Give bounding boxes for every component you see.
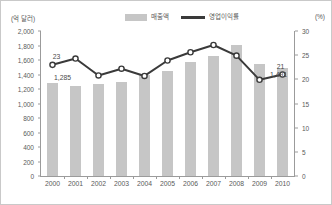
data-point-marker-2004 xyxy=(142,73,147,78)
annotation-revenue-2010: 1,491 xyxy=(270,70,287,77)
data-point-marker-2009 xyxy=(257,77,262,82)
data-point-marker-2005 xyxy=(165,58,170,63)
annotation-revenue-2000: 1,285 xyxy=(54,73,71,80)
data-point-marker-2003 xyxy=(119,66,124,71)
annotation-margin-2010: 21 xyxy=(277,62,285,69)
chart-container: 매출액 영업이익률 (억 달러) (%) 2,0001,8001,6001,40… xyxy=(0,0,332,205)
data-point-marker-2000 xyxy=(50,62,55,67)
data-point-marker-2001 xyxy=(73,56,78,61)
data-point-marker-2008 xyxy=(234,53,239,58)
data-point-marker-2006 xyxy=(188,50,193,55)
data-point-marker-2007 xyxy=(211,42,216,47)
data-point-marker-2002 xyxy=(96,73,101,78)
operating-margin-line-series xyxy=(1,1,332,205)
annotation-margin-2000: 23 xyxy=(53,52,61,59)
